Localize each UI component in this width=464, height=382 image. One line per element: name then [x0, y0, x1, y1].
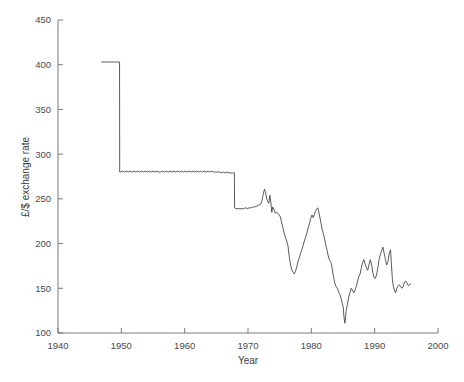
y-axis-tick-labels: 100150200250300350400450: [35, 14, 51, 338]
y-tick-label: 150: [35, 283, 51, 294]
x-axis-title: Year: [238, 355, 259, 366]
x-tick-label: 1940: [47, 340, 68, 351]
y-tick-label: 350: [35, 104, 51, 115]
x-tick-label: 2000: [427, 340, 448, 351]
x-axis-tick-labels: 1940195019601970198019902000: [47, 340, 448, 351]
y-tick-label: 200: [35, 238, 51, 249]
x-tick-label: 1990: [364, 340, 385, 351]
x-tick-label: 1980: [301, 340, 322, 351]
y-axis-title: £/$ exchange rate: [20, 137, 31, 217]
y-tick-label: 250: [35, 193, 51, 204]
x-axis-ticks: [58, 328, 438, 333]
axis-frame: [58, 20, 438, 333]
chart-plot-area: 100150200250300350400450 194019501960197…: [0, 0, 464, 382]
x-tick-label: 1960: [174, 340, 195, 351]
y-tick-label: 100: [35, 327, 51, 338]
exchange-rate-chart-figure: 100150200250300350400450 194019501960197…: [0, 0, 464, 382]
exchange-rate-line: [102, 62, 411, 323]
y-axis-ticks: [58, 20, 63, 333]
y-tick-label: 300: [35, 149, 51, 160]
x-tick-label: 1950: [111, 340, 132, 351]
y-tick-label: 450: [35, 14, 51, 25]
y-tick-label: 400: [35, 59, 51, 70]
x-tick-label: 1970: [237, 340, 258, 351]
